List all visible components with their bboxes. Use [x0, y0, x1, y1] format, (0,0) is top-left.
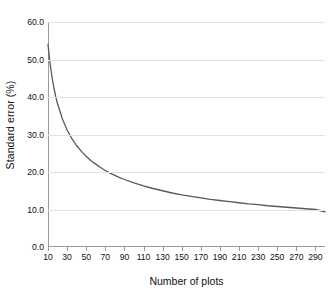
x-tick-label: 250	[270, 252, 284, 262]
y-tick-label: 40.0	[14, 92, 44, 102]
x-axis-tick-labels: 1030507090110130150170190210230250270290	[48, 247, 325, 269]
y-tick-label: 50.0	[14, 55, 44, 65]
x-tick-label: 130	[155, 252, 169, 262]
x-tick-mark	[163, 247, 164, 251]
x-tick-mark	[67, 247, 68, 251]
gridline-horizontal	[48, 60, 325, 61]
x-tick-mark	[201, 247, 202, 251]
x-tick-label: 190	[213, 252, 227, 262]
y-tick-label: 60.0	[14, 17, 44, 27]
y-tick-label: 0.0	[14, 242, 44, 252]
x-tick-mark	[296, 247, 297, 251]
x-tick-mark	[86, 247, 87, 251]
x-tick-mark	[239, 247, 240, 251]
y-tick-label: 10.0	[14, 205, 44, 215]
x-tick-mark	[144, 247, 145, 251]
x-tick-label: 30	[62, 252, 72, 262]
gridline-horizontal	[48, 135, 325, 136]
x-axis-title: Number of plots	[48, 275, 325, 287]
gridline-horizontal	[48, 22, 325, 23]
x-tick-mark	[48, 247, 49, 251]
x-tick-label: 170	[194, 252, 208, 262]
y-tick-label: 20.0	[14, 167, 44, 177]
x-tick-label: 210	[232, 252, 246, 262]
plot-area	[48, 22, 325, 247]
x-tick-label: 110	[137, 252, 151, 262]
x-tick-mark	[105, 247, 106, 251]
x-tick-label: 270	[289, 252, 303, 262]
x-tick-mark	[315, 247, 316, 251]
gridline-horizontal	[48, 172, 325, 173]
x-tick-mark	[258, 247, 259, 251]
gridline-horizontal	[48, 210, 325, 211]
x-tick-label: 150	[175, 252, 189, 262]
x-tick-mark	[124, 247, 125, 251]
y-tick-label: 30.0	[14, 130, 44, 140]
chart-figure: Standard error (%) 0.010.020.030.040.050…	[0, 0, 333, 300]
gridline-horizontal	[48, 97, 325, 98]
x-tick-label: 290	[308, 252, 322, 262]
x-tick-label: 50	[81, 252, 91, 262]
x-tick-mark	[220, 247, 221, 251]
x-tick-label: 10	[43, 252, 53, 262]
x-tick-mark	[277, 247, 278, 251]
x-tick-label: 230	[251, 252, 265, 262]
x-tick-mark	[182, 247, 183, 251]
y-axis-tick-labels: 0.010.020.030.040.050.060.0	[14, 0, 44, 300]
x-tick-label: 70	[101, 252, 111, 262]
x-tick-label: 90	[120, 252, 130, 262]
